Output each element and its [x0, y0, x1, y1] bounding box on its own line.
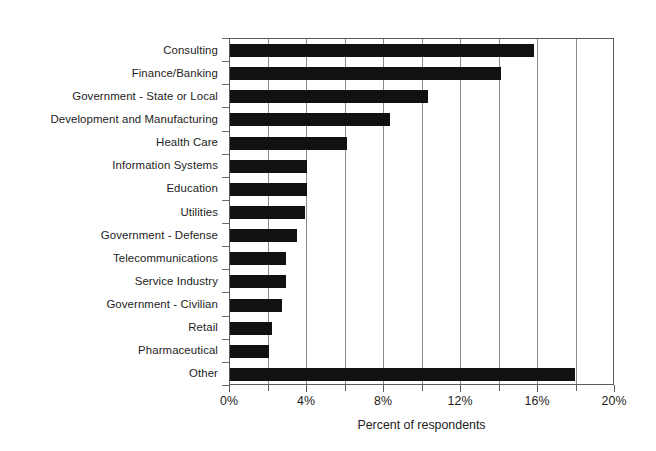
- y-axis-tick: [222, 385, 229, 386]
- category-label: Other: [189, 367, 218, 379]
- x-axis-tick: [499, 385, 500, 391]
- bar: [230, 160, 307, 173]
- y-axis-tick: [222, 246, 229, 247]
- y-axis-tick: [222, 292, 229, 293]
- category-label: Health Care: [156, 136, 218, 148]
- bar: [230, 252, 286, 265]
- category-label: Government - State or Local: [72, 90, 218, 102]
- bar: [230, 137, 347, 150]
- category-label: Information Systems: [112, 159, 218, 171]
- category-label: Government - Civilian: [106, 298, 218, 310]
- x-axis-tick-label: 16%: [507, 394, 567, 408]
- y-axis-tick: [222, 177, 229, 178]
- gridline: [499, 39, 500, 384]
- category-label: Education: [166, 182, 218, 194]
- category-axis-labels: ConsultingFinance/BankingGovernment - St…: [0, 38, 224, 385]
- x-axis-tick: [576, 385, 577, 391]
- category-label: Service Industry: [135, 275, 218, 287]
- y-axis-tick: [222, 154, 229, 155]
- bar: [230, 299, 282, 312]
- x-axis-tick: [229, 385, 230, 392]
- bar: [230, 67, 501, 80]
- x-axis-tick-label: 20%: [584, 394, 644, 408]
- bar: [230, 229, 297, 242]
- bar: [230, 206, 305, 219]
- x-axis-tick: [306, 385, 307, 392]
- y-axis-tick: [222, 107, 229, 108]
- category-label: Telecommunications: [113, 252, 218, 264]
- x-axis-tick-label: 0%: [199, 394, 259, 408]
- category-label: Development and Manufacturing: [50, 113, 218, 125]
- x-axis-tick: [345, 385, 346, 391]
- x-axis-tick-label: 4%: [276, 394, 336, 408]
- y-axis-tick: [222, 200, 229, 201]
- category-label: Consulting: [163, 44, 218, 56]
- gridline: [537, 39, 538, 384]
- y-axis-tick: [222, 38, 229, 39]
- category-label: Finance/Banking: [132, 67, 218, 79]
- x-axis-tick-label: 12%: [430, 394, 490, 408]
- gridline: [576, 39, 577, 384]
- category-label: Retail: [188, 321, 218, 333]
- bar: [230, 345, 269, 358]
- x-axis-tick: [614, 385, 615, 392]
- y-axis-tick: [222, 84, 229, 85]
- bar: [230, 90, 428, 103]
- x-axis-tick: [460, 385, 461, 392]
- gridline: [460, 39, 461, 384]
- x-axis-title: Percent of respondents: [229, 418, 614, 432]
- y-axis-tick: [222, 61, 229, 62]
- category-label: Utilities: [180, 206, 218, 218]
- y-axis-tick: [222, 269, 229, 270]
- bar: [230, 183, 307, 196]
- plot-area: [229, 38, 614, 385]
- category-label: Government - Defense: [101, 229, 218, 241]
- bar: [230, 368, 575, 381]
- y-axis-tick: [222, 316, 229, 317]
- x-axis-tick: [268, 385, 269, 391]
- y-axis-tick: [222, 362, 229, 363]
- x-axis-tick: [537, 385, 538, 392]
- x-axis-tick: [383, 385, 384, 392]
- bar-chart: ConsultingFinance/BankingGovernment - St…: [0, 0, 656, 451]
- y-axis-tick: [222, 339, 229, 340]
- x-axis-tick: [422, 385, 423, 391]
- bar: [230, 322, 272, 335]
- y-axis-tick: [222, 223, 229, 224]
- y-axis-tick: [222, 131, 229, 132]
- x-axis-tick-label: 8%: [353, 394, 413, 408]
- bar: [230, 275, 286, 288]
- bar: [230, 44, 534, 57]
- bar: [230, 113, 390, 126]
- category-label: Pharmaceutical: [138, 344, 218, 356]
